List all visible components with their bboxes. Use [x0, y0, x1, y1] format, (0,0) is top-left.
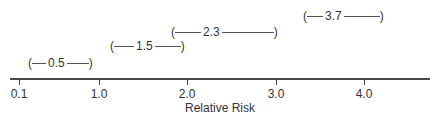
- interval-line: [32, 63, 46, 64]
- interval-line: [114, 46, 134, 47]
- x-tick-label: 1.0: [91, 87, 108, 101]
- interval-line: [155, 46, 181, 47]
- interval-3-7: ( 3.7 ): [303, 9, 384, 23]
- interval-line: [175, 32, 201, 33]
- interval-line: [344, 16, 380, 17]
- interval-line: [67, 63, 89, 64]
- interval-1-5: ( 1.5 ): [110, 39, 185, 53]
- interval-value: 3.7: [323, 9, 344, 23]
- close-bracket: ): [89, 56, 93, 70]
- interval-value: 0.5: [46, 56, 67, 70]
- close-bracket: ): [274, 25, 278, 39]
- close-bracket: ): [181, 39, 185, 53]
- interval-2-3: ( 2.3 ): [171, 25, 278, 39]
- x-tick-label: 3.0: [268, 87, 285, 101]
- x-tick: [276, 80, 277, 85]
- x-tick: [99, 80, 100, 85]
- x-axis-line: [10, 78, 430, 80]
- interval-0-5: ( 0.5 ): [28, 56, 93, 70]
- x-tick: [187, 80, 188, 85]
- x-tick-label: 0.1: [11, 87, 28, 101]
- x-axis-title: Relative Risk: [185, 101, 255, 115]
- x-tick-label: 2.0: [179, 87, 196, 101]
- interval-line: [307, 16, 323, 17]
- interval-value: 2.3: [201, 25, 222, 39]
- x-tick: [364, 80, 365, 85]
- interval-line: [222, 32, 274, 33]
- x-tick: [19, 80, 20, 85]
- x-tick-label: 4.0: [356, 87, 373, 101]
- interval-value: 1.5: [134, 39, 155, 53]
- close-bracket: ): [380, 9, 384, 23]
